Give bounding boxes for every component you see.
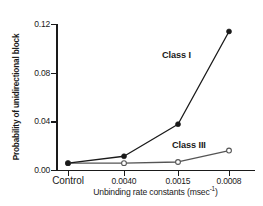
data-point-class-i-3 <box>227 29 232 34</box>
data-point-class-i-0 <box>66 161 71 166</box>
data-point-class-iii-1 <box>122 161 127 166</box>
plot-area <box>0 0 263 206</box>
markers-series-class-i <box>66 29 232 166</box>
data-point-class-iii-2 <box>176 160 181 165</box>
data-point-class-i-1 <box>122 154 127 159</box>
chart-figure: 0.00 0.04 0.08 0.12 Probability of unidi… <box>0 0 263 206</box>
series-label-class-iii: Class III <box>172 140 206 150</box>
series-label-class-i: Class I <box>162 50 191 60</box>
data-point-class-iii-3 <box>227 148 232 153</box>
data-point-class-i-2 <box>176 122 181 127</box>
line-series-class-iii <box>68 151 229 164</box>
